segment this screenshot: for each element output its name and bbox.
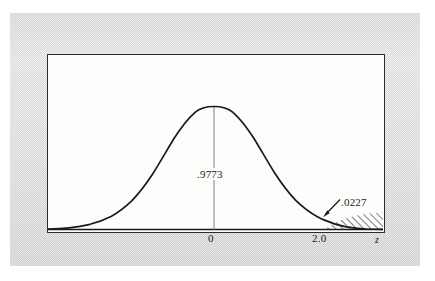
x-axis-variable-label: z [375,234,379,245]
figure-root: .9773 .0227 0 2.0 z [0,0,435,281]
tail-annotation-arrow [323,200,340,218]
tail-shaded-region [324,213,383,230]
x-tick-label-zero: 0 [208,232,214,244]
tail-area-probability-label: .0227 [341,196,367,208]
plot-frame [47,54,385,233]
x-tick-label-two: 2.0 [312,232,326,244]
normal-curve-chart [48,55,383,231]
left-area-probability-label: .9773 [196,168,224,180]
